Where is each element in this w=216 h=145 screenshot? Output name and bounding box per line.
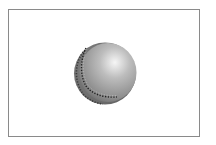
ball-body: [80, 43, 137, 102]
ball-icon: [73, 42, 137, 105]
